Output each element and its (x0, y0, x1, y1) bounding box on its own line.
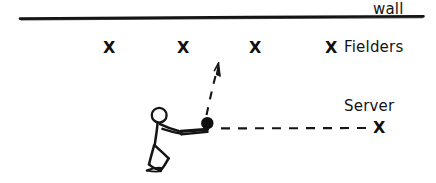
wall-label: wall (373, 2, 404, 17)
stick-figure-front-shin (160, 158, 168, 171)
fielder-marker-3: X (249, 40, 261, 56)
stick-figure-rear-thigh (149, 145, 154, 164)
wall-line-group (20, 16, 424, 20)
fielder-marker-4: X (325, 40, 337, 56)
return-path-dashed-line (207, 70, 218, 115)
sketch-diagram-canvas: wall X X X X Fielders Server X (0, 0, 436, 183)
filled-circle-icon (201, 117, 213, 129)
server-label: Server (344, 99, 394, 114)
stick-figure-icon (147, 108, 208, 172)
fielders-label: Fielders (344, 40, 403, 55)
stick-figure-torso (155, 123, 158, 146)
bat-handle-cap (180, 131, 181, 134)
stick-figure-head (152, 108, 167, 123)
return-arrow-group (207, 63, 221, 116)
fielder-marker-2: X (177, 40, 189, 56)
stick-figure-foot-edge (147, 171, 161, 172)
fielder-marker-1: X (103, 40, 115, 56)
stick-figure-front-thigh (155, 145, 169, 158)
server-marker: X (373, 120, 385, 136)
diagram-drawing-layer (0, 0, 436, 183)
